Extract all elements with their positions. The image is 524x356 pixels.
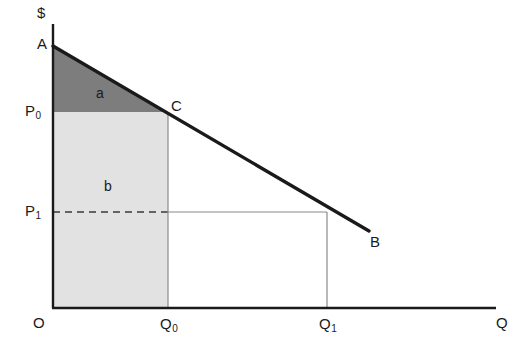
quantity-q0-label: Q0 [160,316,178,334]
point-a-label: A [37,36,47,51]
y-axis-label: $ [37,5,45,20]
region-a-label: a [96,86,104,100]
region-b-shape [53,112,168,308]
price-p1-label: P1 [25,203,41,221]
point-c-label: C [171,98,182,113]
origin-label: O [33,315,45,330]
quantity-q0-base: Q [160,315,172,332]
region-b-label: b [104,179,112,193]
economics-diagram: $ A C B P0 P1 Q0 Q1 O Q a b [0,0,524,356]
x-axis-label: Q [496,315,508,330]
quantity-q1-base: Q [319,315,331,332]
quantity-q1-label: Q1 [319,316,337,334]
price-p0-label: P0 [25,103,41,121]
price-p0-subscript: 0 [35,110,41,121]
price-p1-base: P [25,202,35,219]
price-p0-base: P [25,102,35,119]
point-b-label: B [370,234,380,249]
quantity-q1-subscript: 1 [331,323,337,334]
price-p1-subscript: 1 [35,210,41,221]
diagram-canvas [0,0,524,356]
quantity-q0-subscript: 0 [172,323,178,334]
